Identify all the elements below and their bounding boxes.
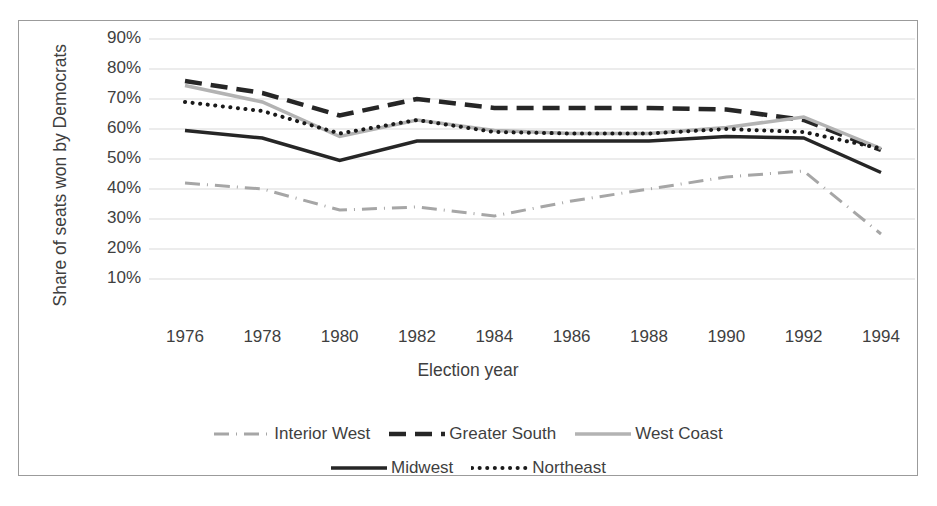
legend-item-interior-west[interactable]: Interior West: [213, 424, 370, 444]
x-tick-label: 1978: [227, 327, 297, 347]
legend-label: Greater South: [449, 424, 556, 444]
y-axis-title: Share of seats won by Democrats: [50, 57, 71, 307]
series-line-midwest: [185, 131, 881, 173]
x-tick-label: 1982: [382, 327, 452, 347]
y-tick-label: 10%: [81, 268, 141, 288]
y-tick-label: 60%: [81, 118, 141, 138]
legend-label: Interior West: [274, 424, 370, 444]
y-tick-label: 40%: [81, 178, 141, 198]
x-tick-label: 1990: [691, 327, 761, 347]
legend-item-west-coast[interactable]: West Coast: [574, 424, 723, 444]
x-tick-label: 1980: [305, 327, 375, 347]
legend-swatch-icon: [213, 427, 271, 441]
y-tick-label: 70%: [81, 88, 141, 108]
legend-row: Interior WestGreater SouthWest Coast: [19, 417, 917, 451]
y-tick-label: 50%: [81, 148, 141, 168]
legend-row: MidwestNortheast: [19, 451, 917, 485]
line-chart-svg: [19, 21, 917, 351]
x-tick-label: 1984: [459, 327, 529, 347]
legend-label: Midwest: [391, 458, 453, 478]
plot-area: [19, 21, 917, 351]
x-tick-label: 1988: [614, 327, 684, 347]
x-tick-label: 1976: [150, 327, 220, 347]
legend-label: Northeast: [532, 458, 606, 478]
x-tick-label: 1994: [846, 327, 916, 347]
legend-swatch-icon: [574, 427, 632, 441]
x-tick-label: 1986: [537, 327, 607, 347]
legend-swatch-icon: [388, 427, 446, 441]
legend-item-midwest[interactable]: Midwest: [330, 458, 453, 478]
x-tick-label: 1992: [769, 327, 839, 347]
chart-frame: Share of seats won by Democrats Election…: [18, 20, 918, 476]
y-tick-label: 90%: [81, 28, 141, 48]
y-tick-label: 20%: [81, 238, 141, 258]
legend-swatch-icon: [330, 461, 388, 475]
y-tick-label: 30%: [81, 208, 141, 228]
y-tick-label: 80%: [81, 58, 141, 78]
x-axis-title: Election year: [19, 360, 917, 381]
legend-item-northeast[interactable]: Northeast: [471, 458, 606, 478]
series-line-interior-west: [185, 171, 881, 234]
legend-label: West Coast: [635, 424, 723, 444]
legend-swatch-icon: [471, 461, 529, 475]
chart-legend: Interior WestGreater SouthWest CoastMidw…: [19, 417, 917, 485]
legend-item-greater-south[interactable]: Greater South: [388, 424, 556, 444]
